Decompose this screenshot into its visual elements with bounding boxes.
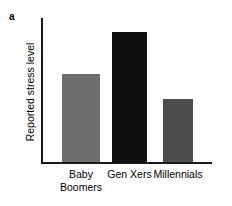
x-axis-tick-label: Millennials [142, 168, 214, 181]
y-axis-line [41, 18, 43, 164]
bar [163, 99, 193, 162]
bar [62, 74, 100, 162]
y-axis-title: Reported stress level [24, 43, 36, 142]
x-axis-tick-labels: Baby BoomersGen XersMillennials [41, 168, 212, 202]
panel-label: a [9, 11, 15, 22]
x-axis-line [41, 162, 212, 164]
figure-panel-a: a Reported stress level Baby BoomersGen … [0, 0, 232, 206]
y-axis-title-container: Reported stress level [23, 22, 37, 162]
bar [112, 32, 147, 162]
plot-area [41, 18, 212, 164]
